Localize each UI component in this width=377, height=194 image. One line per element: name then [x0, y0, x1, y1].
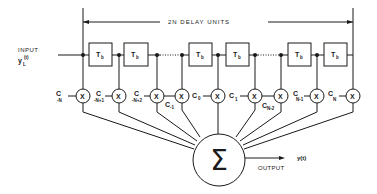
delay-unit: T b — [288, 43, 311, 66]
svg-text:-N+1: -N+1 — [94, 98, 104, 103]
input-signal-arg: (t) — [24, 55, 29, 60]
delay-unit: T b — [124, 43, 148, 66]
arrow-left-icon — [83, 20, 89, 24]
multiplier: X C -N+2 — [132, 89, 164, 103]
svg-text:b: b — [238, 55, 241, 60]
svg-text:X: X — [350, 93, 355, 100]
transversal-filter-diagram: 2N DELAY UNITS INPUT y L (t) T b T b T b — [0, 0, 377, 194]
svg-text:X: X — [252, 93, 257, 100]
arrow-right-icon — [347, 20, 353, 24]
tap-junctions — [81, 53, 353, 89]
svg-text:X: X — [154, 93, 159, 100]
svg-text:X: X — [215, 93, 220, 100]
output-label: OUTPUT — [258, 165, 284, 171]
svg-text:-1: -1 — [170, 105, 174, 110]
multiplier: X C 0 — [192, 89, 225, 103]
svg-text:-N: -N — [57, 98, 62, 103]
svg-text:X: X — [314, 93, 319, 100]
multiplier: X C -1 — [164, 89, 189, 110]
delay-unit: T b — [226, 43, 249, 66]
coefficient-label: C — [134, 90, 139, 97]
svg-text:X: X — [278, 93, 283, 100]
multiplier: X C N — [328, 89, 360, 103]
output-signal: y(t) — [297, 155, 306, 161]
input-signal-sub: L — [23, 62, 26, 67]
svg-text:N-1: N-1 — [296, 97, 304, 102]
svg-text:X: X — [116, 93, 121, 100]
svg-text:N-2: N-2 — [267, 106, 275, 111]
svg-text:0: 0 — [198, 96, 201, 101]
input-label-group: INPUT y L (t) — [18, 47, 39, 67]
svg-text:b: b — [300, 55, 303, 60]
coefficient-label: C — [96, 90, 101, 97]
svg-text:b: b — [101, 55, 104, 60]
svg-text:X: X — [179, 93, 184, 100]
delay-unit: T b — [189, 43, 212, 66]
output-group: y(t) OUTPUT — [245, 155, 306, 171]
input-label: INPUT — [18, 47, 39, 53]
svg-text:X: X — [80, 93, 85, 100]
svg-text:-N+2: -N+2 — [132, 98, 142, 103]
svg-text:b: b — [201, 55, 204, 60]
multiplier: X C 1 — [229, 89, 262, 103]
svg-text:N: N — [333, 97, 336, 102]
svg-text:b: b — [136, 55, 139, 60]
coefficient-label: C — [56, 90, 61, 97]
bracket-label: 2N DELAY UNITS — [168, 19, 230, 25]
svg-text:b: b — [336, 55, 339, 60]
multiplier: X C N-2 — [262, 89, 288, 111]
multiplier: X C -N — [56, 89, 90, 103]
multiplier: X C -N+1 — [94, 89, 126, 103]
coefficient-label: C — [328, 90, 333, 97]
svg-text:1: 1 — [235, 97, 238, 102]
coefficient-label: C — [229, 92, 234, 99]
arrow-right-icon — [279, 156, 285, 160]
summing-junction: Σ — [193, 134, 245, 186]
delay-unit: T b — [89, 43, 112, 66]
coefficient-label: C — [293, 90, 298, 97]
sigma-icon: Σ — [210, 144, 228, 177]
input-signal: y — [18, 57, 22, 65]
coefficient-label: C — [192, 92, 197, 99]
multiplier: X C N-1 — [293, 89, 324, 103]
delay-unit: T b — [324, 43, 347, 66]
